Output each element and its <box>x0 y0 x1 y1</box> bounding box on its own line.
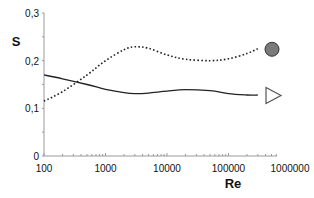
y-tick-label: 0 <box>33 151 39 162</box>
y-tick-label: 0,1 <box>25 103 39 114</box>
triangle-marker-icon <box>266 87 281 103</box>
axis-labels: 00,10,20,31001000100001000001000000SRe <box>12 8 310 191</box>
circle-marker-icon <box>265 42 279 56</box>
y-tick-label: 0,2 <box>25 56 39 67</box>
y-axis-title: S <box>12 34 21 49</box>
series-layer <box>44 47 258 101</box>
legend-markers <box>265 42 281 103</box>
x-tick-label: 100000 <box>212 163 246 174</box>
x-tick-label: 1000 <box>94 163 117 174</box>
y-tick-label: 0,3 <box>25 8 39 19</box>
x-axis-title: Re <box>225 176 242 191</box>
chart: 00,10,20,31001000100001000001000000SRe <box>0 0 314 198</box>
x-tick-label: 1000000 <box>271 163 310 174</box>
x-tick-label: 100 <box>36 163 53 174</box>
axes <box>42 13 277 156</box>
series-triangle-line <box>44 75 258 95</box>
x-tick-label: 10000 <box>153 163 181 174</box>
